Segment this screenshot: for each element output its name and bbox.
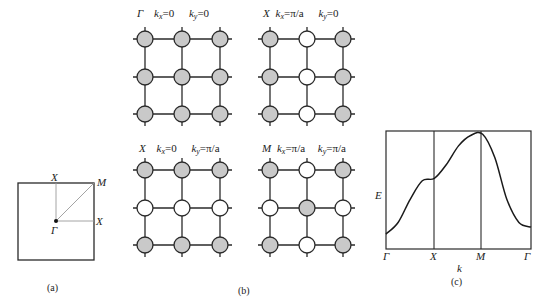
atom-site-empty bbox=[299, 31, 315, 47]
atom-site-empty bbox=[262, 200, 278, 216]
lattice-0-heading: Γ kx=0 ky=0 bbox=[136, 7, 210, 21]
tick-m: M bbox=[475, 250, 486, 262]
label-gamma-center: Γ bbox=[50, 224, 58, 236]
lattice-1-heading: X kx=π/a ky=0 bbox=[262, 7, 339, 21]
atom-site-empty bbox=[174, 200, 190, 216]
atom-site-filled bbox=[174, 106, 190, 122]
lattice-3-heading: M kx=π/a ky=π/a bbox=[261, 142, 346, 156]
atom-site-filled bbox=[137, 237, 153, 253]
atom-site-filled bbox=[262, 237, 278, 253]
atom-site-filled bbox=[174, 31, 190, 47]
atom-site-filled bbox=[212, 237, 228, 253]
atom-site-empty bbox=[299, 237, 315, 253]
atom-site-filled bbox=[137, 106, 153, 122]
y-axis-label: E bbox=[374, 189, 382, 201]
panel-c-band-structure: E Γ X M Γ k (c) bbox=[374, 131, 531, 288]
atom-site-filled bbox=[212, 31, 228, 47]
plot-frame bbox=[386, 131, 531, 249]
label-x-top: X bbox=[50, 171, 59, 183]
lattice-x-ky bbox=[133, 158, 232, 257]
atom-site-filled bbox=[212, 106, 228, 122]
atom-site-filled bbox=[335, 162, 351, 178]
atom-site-empty bbox=[299, 162, 315, 178]
gamma-m-line bbox=[56, 183, 94, 221]
atom-site-empty bbox=[335, 200, 351, 216]
tick-gamma-end: Γ bbox=[523, 250, 531, 262]
panel-a-brillouin-zone: X X M Γ (a) bbox=[18, 171, 107, 294]
tick-gamma-start: Γ bbox=[382, 250, 390, 262]
tick-x: X bbox=[429, 250, 438, 262]
figure: X X M Γ (a) Γ kx=0 ky=0 X kx=π/a ky=0 X … bbox=[0, 0, 541, 300]
panel-b-lattices: Γ kx=0 ky=0 X kx=π/a ky=0 X kx=0 ky=π/a … bbox=[133, 7, 355, 297]
label-m-corner: M bbox=[96, 176, 107, 188]
atom-site-filled bbox=[174, 237, 190, 253]
atom-site-filled bbox=[262, 162, 278, 178]
caption-b: (b) bbox=[238, 285, 250, 297]
caption-c: (c) bbox=[451, 276, 462, 288]
atom-site-filled bbox=[137, 69, 153, 85]
atom-site-filled bbox=[137, 31, 153, 47]
atom-site-filled bbox=[212, 162, 228, 178]
atom-site-empty bbox=[299, 106, 315, 122]
x-axis-label: k bbox=[457, 262, 463, 274]
gamma-point bbox=[54, 219, 58, 223]
atom-site-filled bbox=[262, 69, 278, 85]
atom-site-empty bbox=[137, 200, 153, 216]
atom-site-filled bbox=[335, 31, 351, 47]
atom-site-filled bbox=[174, 162, 190, 178]
atom-site-empty bbox=[212, 200, 228, 216]
atom-site-filled bbox=[262, 106, 278, 122]
lattice-x-kx bbox=[258, 27, 355, 126]
lattice-m bbox=[258, 158, 355, 257]
caption-a: (a) bbox=[47, 282, 58, 294]
atom-site-filled bbox=[335, 106, 351, 122]
atom-site-filled bbox=[212, 69, 228, 85]
atom-site-filled bbox=[335, 237, 351, 253]
atom-site-filled bbox=[174, 69, 190, 85]
band-curve bbox=[386, 133, 531, 235]
atom-site-filled bbox=[137, 162, 153, 178]
atom-site-filled bbox=[262, 31, 278, 47]
lattice-2-heading: X kx=0 ky=π/a bbox=[138, 142, 220, 156]
atom-site-filled bbox=[299, 200, 315, 216]
atom-site-filled bbox=[335, 69, 351, 85]
atom-site-empty bbox=[299, 69, 315, 85]
label-x-right: X bbox=[95, 215, 104, 227]
lattice-gamma bbox=[133, 27, 232, 126]
